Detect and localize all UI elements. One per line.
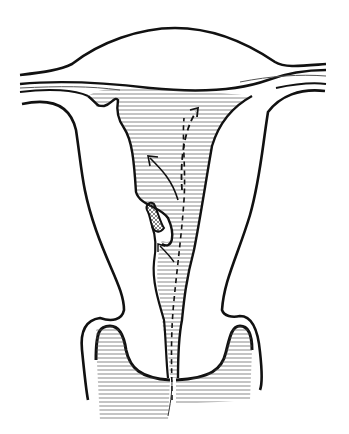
uterus-illustration xyxy=(0,0,349,434)
illustration-canvas xyxy=(0,0,349,434)
fundus-dome xyxy=(20,28,326,75)
band-bottom-right xyxy=(276,83,326,88)
band-bottom-left xyxy=(20,90,88,96)
